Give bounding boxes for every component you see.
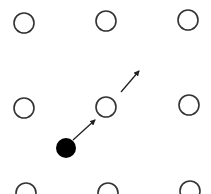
lattice-site	[16, 183, 36, 194]
filled-particle	[56, 138, 76, 158]
lattice-site	[178, 10, 198, 30]
arrow-icon	[121, 71, 139, 92]
arrow-icon	[73, 120, 95, 140]
lattice-site	[180, 181, 200, 194]
lattice-site	[96, 11, 116, 31]
motion-arrows	[73, 71, 139, 140]
lattice-diagram	[0, 0, 211, 194]
lattice-site	[98, 183, 118, 194]
lattice-site	[14, 13, 34, 33]
lattice-sites	[14, 10, 200, 194]
lattice-site	[96, 97, 116, 117]
lattice-site	[14, 98, 34, 118]
lattice-site	[179, 95, 199, 115]
